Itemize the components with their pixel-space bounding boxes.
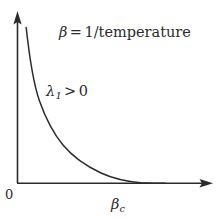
beta-critical-subscript: c: [120, 203, 126, 214]
origin-zero: 0: [5, 187, 13, 202]
origin-label: 0: [5, 188, 13, 201]
temperature-text: temperature: [99, 24, 191, 40]
beta-critical-symbol: β: [111, 196, 119, 212]
equals-operator: =: [70, 24, 82, 40]
beta-symbol: β: [59, 24, 67, 40]
figure-container: β=1/temperature λ1>0 βc 0: [0, 0, 218, 219]
beta-critical-label: βc: [111, 197, 125, 214]
lambda-symbol: λ: [46, 83, 55, 99]
decay-curve: [26, 28, 165, 184]
numerator-one: 1: [84, 24, 93, 40]
greater-than-operator: >: [64, 83, 76, 99]
beta-definition-label: β=1/temperature: [59, 25, 191, 40]
lambda-subscript: 1: [55, 90, 61, 101]
lambda-condition-label: λ1>0: [46, 84, 88, 101]
zero-value: 0: [79, 83, 88, 99]
